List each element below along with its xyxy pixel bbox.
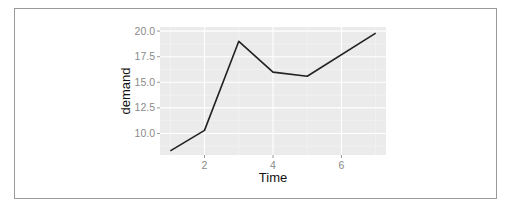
x-axis-title: Time [259, 170, 287, 185]
x-tick-label: 2 [202, 159, 208, 171]
y-axis-title: demand [118, 68, 133, 115]
y-tick-label: 15.0 [135, 76, 156, 88]
line-chart: 246 10.012.515.017.520.0 Time demand [0, 0, 510, 210]
y-axis-ticks: 10.012.515.017.520.0 [135, 25, 160, 139]
y-tick-label: 10.0 [135, 127, 156, 139]
y-tick-label: 17.5 [135, 50, 156, 62]
y-tick-label: 12.5 [135, 101, 156, 113]
x-axis-ticks: 246 [202, 155, 345, 171]
x-tick-label: 6 [339, 159, 345, 171]
y-tick-label: 20.0 [135, 25, 156, 37]
